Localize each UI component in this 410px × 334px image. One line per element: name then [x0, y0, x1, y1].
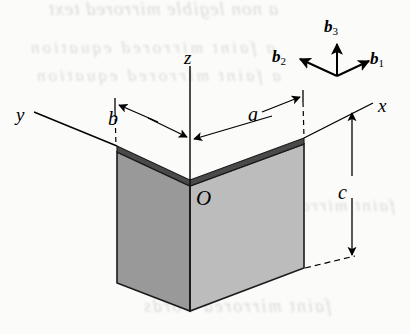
c-extension-dashed: [305, 256, 355, 268]
b1-vector-arrow: [337, 61, 369, 76]
a-arrow-left: [194, 116, 272, 139]
a-arrow-right: [262, 97, 300, 112]
a-extension-dashed: [303, 102, 304, 138]
x-axis-line: [304, 103, 373, 138]
b-extension-dashed: [115, 110, 116, 146]
right-plate-face: [190, 144, 304, 311]
figure-drawing: [0, 0, 410, 334]
y-axis-line: [34, 112, 117, 146]
b2-vector-arrow: [300, 59, 337, 76]
b-arrow-right: [148, 118, 187, 137]
figure-container: a non legible mirrored text a faint mirr…: [0, 0, 410, 334]
